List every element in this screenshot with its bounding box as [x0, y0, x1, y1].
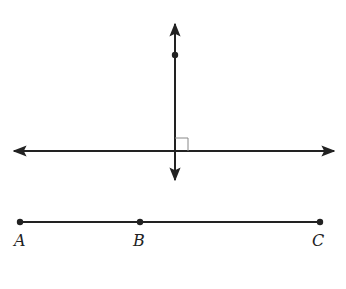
label-a: A [12, 231, 26, 250]
point-a [17, 219, 23, 225]
point-c [317, 219, 323, 225]
label-b: B [132, 231, 145, 250]
point-on-vertical-line [172, 52, 178, 58]
right-angle-marker [175, 138, 188, 151]
geometry-diagram: A B C [0, 0, 346, 289]
point-b [137, 219, 143, 225]
label-c: C [312, 231, 324, 250]
